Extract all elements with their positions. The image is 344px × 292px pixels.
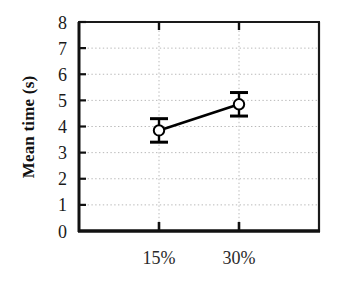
y-tick-label: 7 [58,39,67,59]
y-tick-label: 6 [58,65,67,85]
data-point-marker [154,125,164,135]
chart-container: 012345678 15%30% Mean time (s) [0,0,344,292]
line-chart: 012345678 15%30% Mean time (s) [0,0,344,292]
y-tick-label: 8 [58,13,67,33]
y-axis-tick-labels: 012345678 [58,13,67,242]
y-axis-label: Mean time (s) [19,76,38,179]
y-tick-label: 3 [58,143,67,163]
x-tick-label: 15% [143,248,176,268]
y-tick-label: 0 [58,222,67,242]
y-tick-label: 1 [58,195,67,215]
y-tick-label: 2 [58,169,67,189]
y-tick-label: 4 [58,117,67,137]
y-tick-label: 5 [58,91,67,111]
data-point-marker [234,99,244,109]
x-tick-label: 30% [223,248,256,268]
